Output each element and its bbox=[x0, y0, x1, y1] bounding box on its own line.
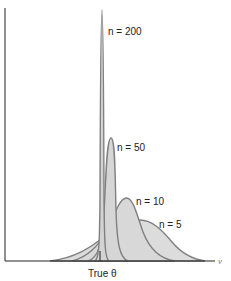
x-axis-label: v bbox=[218, 256, 222, 266]
label-n200: n = 200 bbox=[108, 26, 142, 37]
label-true-theta: True θ bbox=[88, 268, 117, 279]
label-n10: n = 10 bbox=[136, 196, 165, 207]
sampling-distribution-chart: n = 200 n = 50 n = 10 n = 5 True θ v bbox=[0, 0, 231, 281]
label-n50: n = 50 bbox=[117, 142, 146, 153]
label-n5: n = 5 bbox=[159, 219, 182, 230]
